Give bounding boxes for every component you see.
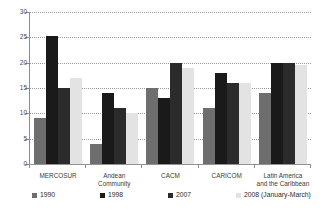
bar [90, 144, 102, 164]
bar [114, 108, 126, 164]
bar [70, 78, 82, 164]
bar [203, 108, 215, 164]
legend-item[interactable]: 1990 [32, 192, 55, 199]
bar [102, 93, 114, 164]
x-category-label: Latin Americaand the Caribbean [249, 172, 317, 188]
y-tick-label: 0 [7, 161, 27, 168]
y-tick-label: 20 [7, 60, 27, 67]
y-tick-label: 5 [7, 136, 27, 143]
x-tick-mark [254, 164, 255, 168]
legend-label: 2008 (January-March) [244, 192, 311, 199]
gridline [30, 164, 311, 165]
x-tick-mark [310, 164, 311, 168]
legend-swatch-icon [32, 193, 37, 198]
bar [58, 88, 70, 164]
bar-group [30, 12, 86, 164]
bar-group [199, 12, 255, 164]
legend-swatch-icon [236, 193, 241, 198]
bar [215, 73, 227, 164]
x-category-label-line: Latin America [249, 172, 317, 180]
bar [170, 63, 182, 164]
bar-group [86, 12, 142, 164]
bar [259, 93, 271, 164]
y-tick-label: 30 [7, 9, 27, 16]
legend-label: 1998 [108, 192, 123, 199]
chart-legend: 1990199820072008 (January-March) [0, 192, 324, 206]
x-tick-mark [29, 164, 30, 168]
legend-swatch-icon [100, 193, 105, 198]
bar [126, 113, 138, 164]
legend-item[interactable]: 2007 [168, 192, 191, 199]
bar-group [255, 12, 311, 164]
bar [146, 88, 158, 164]
bar [46, 36, 58, 164]
legend-label: 2007 [176, 192, 191, 199]
y-tick-label: 15 [7, 85, 27, 92]
bar [239, 83, 251, 164]
y-tick-label: 25 [7, 34, 27, 41]
legend-swatch-icon [168, 193, 173, 198]
bar-group [142, 12, 198, 164]
legend-item[interactable]: 2008 (January-March) [236, 192, 311, 199]
bar [34, 118, 46, 164]
bar [283, 63, 295, 164]
bar [271, 63, 283, 164]
bar [182, 68, 194, 164]
bar-chart: 051015202530 MERCOSURAndeanCommunityCACM… [0, 0, 324, 213]
bar [295, 65, 307, 164]
legend-item[interactable]: 1998 [100, 192, 123, 199]
bar [158, 98, 170, 164]
bar [227, 83, 239, 164]
x-tick-mark [198, 164, 199, 168]
plot-area [30, 12, 311, 164]
x-tick-mark [85, 164, 86, 168]
legend-label: 1990 [40, 192, 55, 199]
x-category-label-line: Community [80, 180, 148, 188]
y-tick-label: 10 [7, 110, 27, 117]
x-tick-mark [141, 164, 142, 168]
x-category-label-line: and the Caribbean [249, 180, 317, 188]
